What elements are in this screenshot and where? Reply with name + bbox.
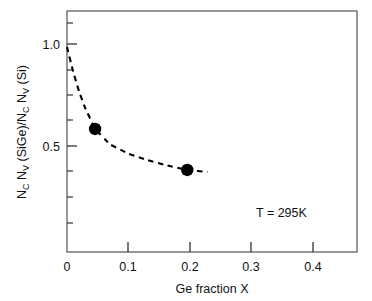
plot-frame [67,11,357,252]
y-axis-title-n3: N [15,94,29,107]
y-tick-label-0.5: 0.5 [43,140,60,154]
y-axis-title-tail: (Si) [15,65,29,88]
y-axis-title-n1: N [15,190,29,199]
x-tick-label-0.1: 0.1 [119,260,136,274]
x-tick-label-0.3: 0.3 [242,260,259,274]
annotation-temperature: T = 295K [256,206,308,220]
chart-canvas: 1.0 0.5 0 0.1 0.2 0.3 0.4 Ge fraction X … [0,0,372,301]
data-point-marker [89,123,101,135]
data-point-marker [181,164,193,176]
y-axis-title: NC NV (SiGe)/NC NV (Si) [15,65,31,199]
y-tick-label-1.0: 1.0 [43,38,60,52]
x-tick-label-0: 0 [64,260,71,274]
chart-figure: 1.0 0.5 0 0.1 0.2 0.3 0.4 Ge fraction X … [0,0,372,301]
x-axis-title: Ge fraction X [176,282,250,296]
x-tick-label-0.4: 0.4 [304,260,321,274]
y-axis-title-n2: N [15,171,29,184]
x-tick-label-0.2: 0.2 [181,260,198,274]
y-axis-title-mid: (SiGe)/N [15,113,29,165]
